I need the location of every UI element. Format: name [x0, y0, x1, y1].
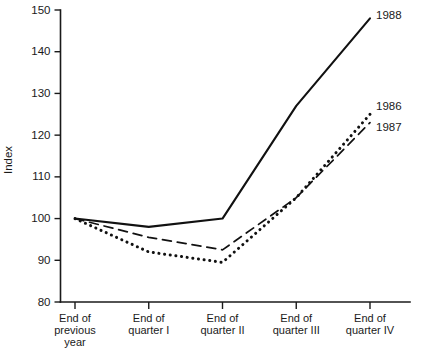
y-tick-label: 90: [38, 254, 51, 266]
series-line-1986: [75, 114, 370, 262]
series-labels: 198619871988: [376, 9, 402, 132]
y-tick-label: 150: [31, 4, 50, 16]
x-tick-label: End ofquarter II: [200, 312, 244, 336]
x-tick-label: End ofquarter I: [128, 312, 169, 336]
y-tick-label: 120: [31, 129, 50, 141]
series-line-1988: [75, 18, 370, 227]
series-label-1986: 1986: [376, 100, 402, 112]
line-chart: 8090100110120130140150 End ofpreviousyea…: [0, 0, 421, 353]
x-axis: End ofpreviousyearEnd ofquarter IEnd ofq…: [54, 302, 410, 348]
y-tick-label: 130: [31, 87, 50, 99]
y-tick-label: 110: [32, 170, 50, 182]
series-label-1988: 1988: [376, 9, 402, 21]
y-tick-label: 80: [38, 296, 51, 308]
series-line-1987: [75, 123, 370, 250]
y-tick-label: 100: [31, 212, 50, 224]
x-tick-label: End ofquarter IV: [346, 312, 395, 336]
x-tick-label: End ofpreviousyear: [54, 312, 96, 348]
y-tick-label: 140: [31, 45, 50, 57]
series-lines: [75, 18, 370, 262]
x-tick-label: End ofquarter III: [273, 312, 320, 336]
y-axis-title: Index: [2, 146, 14, 174]
y-axis: 8090100110120130140150: [31, 4, 60, 308]
series-label-1987: 1987: [376, 121, 402, 133]
chart-canvas: 8090100110120130140150 End ofpreviousyea…: [0, 0, 421, 353]
